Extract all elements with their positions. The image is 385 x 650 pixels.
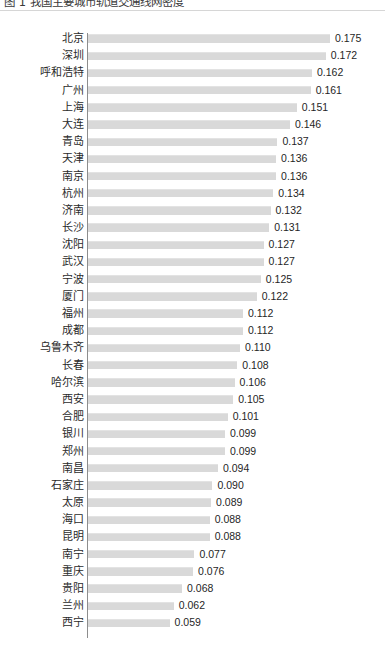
bar-category-label: 郑州 <box>0 443 84 460</box>
bar-row: 厦门0.122 <box>0 288 385 305</box>
bar-fill <box>88 619 170 627</box>
header-divider <box>0 10 385 11</box>
bar <box>88 155 276 163</box>
bar-category-label: 长沙 <box>0 219 84 236</box>
bar-category-label: 贵阳 <box>0 580 84 597</box>
bar-category-label: 兰州 <box>0 597 84 614</box>
bar-category-label: 乌鲁木齐 <box>0 339 84 356</box>
bar <box>88 120 290 128</box>
bar <box>88 86 311 94</box>
bar-value-label: 0.112 <box>248 305 274 322</box>
bar-row: 南宁0.077 <box>0 546 385 563</box>
bar-row: 海口0.088 <box>0 511 385 528</box>
bar-value-label: 0.132 <box>276 202 302 219</box>
bar-row: 兰州0.062 <box>0 597 385 614</box>
bar <box>88 275 261 283</box>
bar-category-label: 石家庄 <box>0 477 84 494</box>
bar <box>88 241 264 249</box>
bar <box>88 533 210 541</box>
bar <box>88 464 218 472</box>
bar-fill <box>88 567 193 575</box>
bar-fill <box>88 464 218 472</box>
bar-category-label: 海口 <box>0 511 84 528</box>
bar-row: 南昌0.094 <box>0 460 385 477</box>
bar-row: 北京0.175 <box>0 30 385 47</box>
bar-value-label: 0.106 <box>240 374 266 391</box>
bar-value-label: 0.172 <box>331 47 357 64</box>
bar-category-label: 南宁 <box>0 546 84 563</box>
bar-row: 西宁0.059 <box>0 614 385 631</box>
bar-value-label: 0.088 <box>215 528 241 545</box>
bar-row: 西安0.105 <box>0 391 385 408</box>
bar-row: 呼和浩特0.162 <box>0 64 385 81</box>
bar-value-label: 0.108 <box>242 357 268 374</box>
bar-category-label: 济南 <box>0 202 84 219</box>
bar-category-label: 昆明 <box>0 528 84 545</box>
bar-category-label: 西安 <box>0 391 84 408</box>
bar-fill <box>88 172 276 180</box>
bar <box>88 567 193 575</box>
bar-fill <box>88 103 297 111</box>
bar-fill <box>88 481 212 489</box>
bar-row: 深圳0.172 <box>0 47 385 64</box>
bar-category-label: 重庆 <box>0 563 84 580</box>
bar-value-label: 0.161 <box>316 82 342 99</box>
bar-value-label: 0.127 <box>269 253 295 270</box>
bar <box>88 516 210 524</box>
bar-fill <box>88 395 233 403</box>
bar-fill <box>88 155 276 163</box>
bar-fill <box>88 206 271 214</box>
bar-value-label: 0.110 <box>245 339 271 356</box>
bar-fill <box>88 138 277 146</box>
bar-category-label: 西宁 <box>0 614 84 631</box>
bar <box>88 189 273 197</box>
bar-value-label: 0.099 <box>230 443 256 460</box>
bar-category-label: 深圳 <box>0 47 84 64</box>
bar-category-label: 成都 <box>0 322 84 339</box>
bar-value-label: 0.122 <box>262 288 288 305</box>
bar <box>88 619 170 627</box>
bar <box>88 223 269 231</box>
bar-value-label: 0.112 <box>248 322 274 339</box>
bar-fill <box>88 447 225 455</box>
bar-fill <box>88 378 235 386</box>
bar-fill <box>88 413 228 421</box>
bar-fill <box>88 275 261 283</box>
bar-fill <box>88 584 182 592</box>
bar-row: 宁波0.125 <box>0 271 385 288</box>
bar-row: 济南0.132 <box>0 202 385 219</box>
bar-fill <box>88 550 194 558</box>
bar <box>88 498 211 506</box>
bar-fill <box>88 258 264 266</box>
bar <box>88 103 297 111</box>
bar-fill <box>88 86 311 94</box>
bar-fill <box>88 430 225 438</box>
bar-fill <box>88 69 312 77</box>
bar-value-label: 0.105 <box>238 391 264 408</box>
bar <box>88 206 271 214</box>
bar <box>88 602 174 610</box>
bar-row: 乌鲁木齐0.110 <box>0 339 385 356</box>
bar-category-label: 合肥 <box>0 408 84 425</box>
bar-row: 天津0.136 <box>0 150 385 167</box>
bar <box>88 52 326 60</box>
bar-value-label: 0.090 <box>217 477 243 494</box>
bar-value-label: 0.136 <box>281 150 307 167</box>
bar <box>88 481 212 489</box>
bar-category-label: 长春 <box>0 357 84 374</box>
bar <box>88 327 243 335</box>
bar-category-label: 银川 <box>0 425 84 442</box>
bar-value-label: 0.076 <box>198 563 224 580</box>
bar-row: 杭州0.134 <box>0 185 385 202</box>
bar-value-label: 0.136 <box>281 168 307 185</box>
bar-fill <box>88 309 243 317</box>
bar <box>88 172 276 180</box>
bar <box>88 447 225 455</box>
bar-category-label: 天津 <box>0 150 84 167</box>
bar-row: 郑州0.099 <box>0 443 385 460</box>
bar <box>88 584 182 592</box>
bar-value-label: 0.134 <box>278 185 304 202</box>
bar-fill <box>88 189 273 197</box>
bar-fill <box>88 223 269 231</box>
bar <box>88 361 237 369</box>
